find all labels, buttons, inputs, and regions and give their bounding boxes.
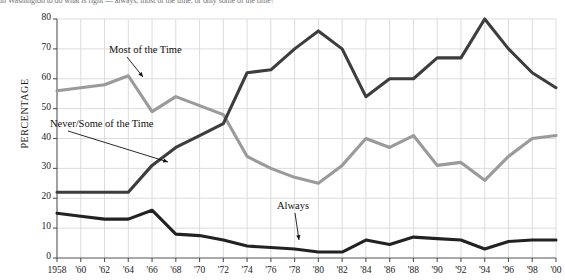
y-tick-label: 60 xyxy=(25,72,51,82)
y-tick-label: 80 xyxy=(25,12,51,22)
y-tick-label: 50 xyxy=(25,102,51,112)
series-label-0: Most of the Time xyxy=(109,44,182,55)
y-tick-label: 0 xyxy=(25,251,51,261)
annotation-arrowhead-2 xyxy=(296,235,300,240)
y-tick-label: 10 xyxy=(25,221,51,231)
annotation-arrow-1 xyxy=(68,131,168,162)
x-tick-label: '00 xyxy=(539,265,565,275)
annotation-arrowhead-1 xyxy=(163,159,168,163)
chart-plot-area xyxy=(0,0,565,280)
series-line-2 xyxy=(57,210,556,252)
y-tick-label: 70 xyxy=(25,42,51,52)
y-tick-label: 20 xyxy=(25,191,51,201)
series-label-1: Never/Some of the Time xyxy=(50,118,154,129)
y-tick-label: 30 xyxy=(25,161,51,171)
y-tick-label: 40 xyxy=(25,132,51,142)
series-line-0 xyxy=(57,76,556,184)
chart-figure: in Washington to do what is right — alwa… xyxy=(0,0,565,280)
series-label-2: Always xyxy=(277,200,309,211)
